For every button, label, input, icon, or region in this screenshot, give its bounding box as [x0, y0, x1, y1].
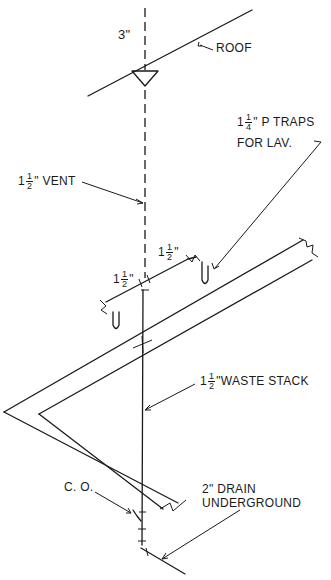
- drain-label-line2: UNDERGROUND: [202, 496, 301, 510]
- left-p-trap-icon: [113, 312, 119, 329]
- underground-drain: [141, 548, 185, 574]
- vent-top-size-label: 3": [118, 28, 130, 42]
- vent-size-fraction: 12: [26, 172, 33, 191]
- p-traps-size-fraction: 14: [245, 113, 252, 132]
- p-trap-leader: [215, 142, 321, 268]
- roof-label: ROOF: [216, 41, 252, 55]
- vent-text: VENT: [43, 174, 76, 188]
- plumbing-riser-drawing: [0, 0, 331, 580]
- drain-label-line1: 2" DRAIN: [202, 482, 256, 496]
- cleanout-label: C. O.: [64, 480, 94, 494]
- vent-leader: [82, 182, 143, 203]
- drain-leader: [162, 510, 240, 559]
- waste-stack-leader: [145, 384, 195, 410]
- branch-right-size-label: 112": [158, 243, 179, 262]
- p-trap-leader-tail: [314, 141, 321, 142]
- branch-left-size-label: 112": [113, 270, 134, 289]
- waste-stack-pipe: [142, 290, 143, 545]
- waste-stack-label: 112"WASTE STACK: [200, 372, 309, 391]
- drain-lower-inner: [39, 414, 163, 509]
- right-p-trap-icon: [202, 262, 208, 284]
- vent-leader-arrow: [136, 199, 143, 204]
- p-traps-size-whole: 1: [237, 115, 244, 129]
- vent-flashing-icon: [132, 71, 158, 86]
- p-traps-label: 114" P TRAPS: [237, 113, 315, 132]
- p-traps-label-line2: FOR LAV.: [237, 136, 292, 150]
- drain-break-lower: [160, 500, 186, 511]
- p-traps-text: P TRAPS: [262, 115, 315, 129]
- cleanout-leader: [95, 492, 131, 513]
- vent-label: 112" VENT: [18, 172, 76, 191]
- waste-stack-text: WASTE STACK: [221, 374, 309, 388]
